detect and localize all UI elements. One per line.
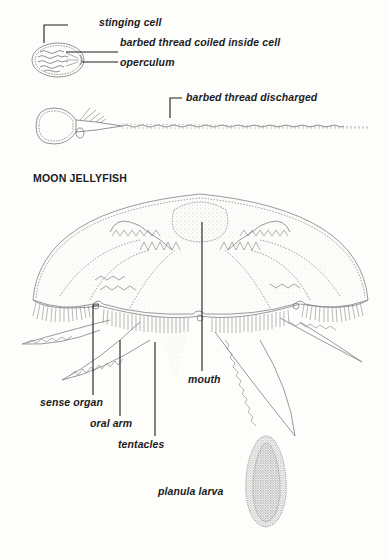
discharged-leader-line bbox=[170, 98, 182, 118]
label-tentacles: tentacles bbox=[118, 439, 164, 450]
label-stinging-cell: stinging cell bbox=[99, 17, 162, 28]
label-sense-organ: sense organ bbox=[40, 397, 103, 408]
label-oral-arm: oral arm bbox=[90, 418, 132, 429]
label-mouth: mouth bbox=[188, 374, 221, 385]
stinging-cell-discharged bbox=[36, 108, 370, 144]
label-planula-larva: planula larva bbox=[158, 486, 224, 497]
planula-larva-drawing bbox=[246, 436, 287, 527]
jellyfish-bell bbox=[33, 194, 368, 321]
stinging-cell-coiled bbox=[32, 43, 84, 77]
label-operculum: operculum bbox=[120, 57, 175, 68]
label-barbed-thread-discharged: barbed thread discharged bbox=[186, 92, 317, 103]
label-barbed-thread-coiled: barbed thread coiled inside cell bbox=[120, 37, 280, 48]
illustration bbox=[0, 0, 387, 560]
section-title-moon-jellyfish: MOON JELLYFISH bbox=[33, 173, 127, 184]
